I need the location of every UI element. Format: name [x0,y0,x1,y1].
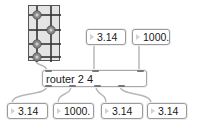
number-triangle-icon [90,34,94,40]
patch-cord-out4 [120,86,151,103]
router-object[interactable]: router 2 4 [42,70,147,87]
outlet-port[interactable] [69,85,76,87]
number-value: 1000. [143,31,169,44]
matrix-control[interactable] [28,5,60,61]
output-number-box-1[interactable]: 3.14 [7,103,48,119]
outlet-port[interactable] [45,85,52,87]
input-number-box-2[interactable]: 1000. [132,29,170,45]
matrix-cell-active-icon [33,53,41,61]
patch-cord-out1 [12,86,47,103]
number-value: 1000. [64,105,90,118]
output-number-box-4[interactable]: 3.14 [147,103,187,119]
number-value: 3.14 [158,105,178,118]
number-value: 3.14 [18,105,38,118]
inlet-port[interactable] [137,70,144,72]
number-triangle-icon [151,108,155,114]
object-text: router 2 4 [46,72,93,86]
matrix-cell-active-icon [33,40,41,48]
number-value: 3.14 [97,31,117,44]
matrix-cell-active-icon [33,11,41,19]
number-value: 3.14 [112,105,132,118]
number-triangle-icon [136,34,140,40]
output-number-box-2[interactable]: 1000. [53,103,94,119]
number-triangle-icon [11,108,15,114]
outlet-port[interactable] [94,85,101,87]
patch-cord-out3 [96,86,106,103]
output-number-box-3[interactable]: 3.14 [101,103,143,119]
patch-cord-out2 [58,86,71,103]
input-number-box-1[interactable]: 3.14 [86,29,126,45]
outlet-port[interactable] [118,85,125,87]
number-triangle-icon [57,108,61,114]
matrix-cell-active-icon [47,26,55,34]
number-triangle-icon [105,108,109,114]
